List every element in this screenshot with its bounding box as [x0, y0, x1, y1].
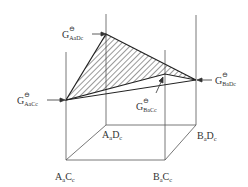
diagram-canvas: [0, 0, 248, 187]
corner-label-AaDc: AaDc: [102, 130, 122, 143]
base-square: [66, 125, 196, 160]
label-G-BaDc: G⊖BaDc: [215, 76, 236, 89]
corner-label-BaDc: BaDc: [197, 131, 217, 144]
label-G-BaCc: G⊖BaCc: [136, 102, 157, 115]
label-G-AaCc: G⊖AaCc: [17, 96, 38, 109]
corner-label-BaCc: BaCc: [153, 172, 172, 185]
label-G-AaDc: G⊖AaDc: [62, 30, 83, 43]
corner-label-AaCc: AaCc: [55, 172, 75, 185]
